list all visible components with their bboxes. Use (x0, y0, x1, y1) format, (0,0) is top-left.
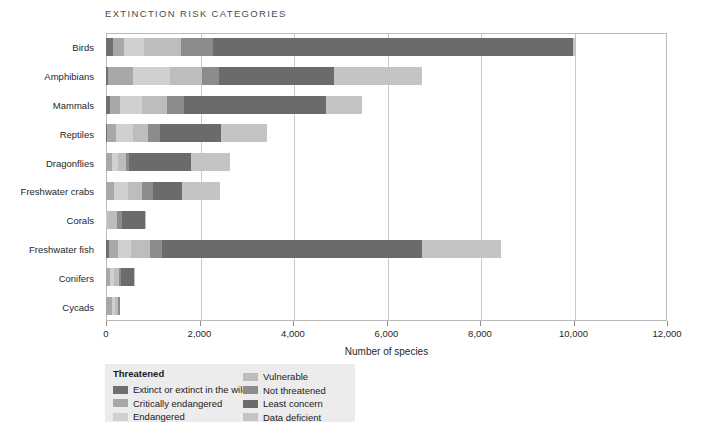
bar-segment[interactable] (219, 67, 334, 85)
bar-segment[interactable] (148, 124, 160, 142)
bar-segment[interactable] (334, 67, 422, 85)
bar-segment[interactable] (182, 182, 220, 200)
y-axis-category-labels: BirdsAmphibiansMammalsReptilesDragonflie… (0, 33, 100, 321)
y-axis-label-row: Reptiles (0, 119, 100, 148)
y-axis-tick-label: Birds (72, 42, 94, 53)
bar-segment[interactable] (153, 182, 182, 200)
legend-swatch (243, 413, 258, 421)
bar-segment[interactable] (118, 240, 131, 258)
bar-segment[interactable] (162, 240, 421, 258)
stacked-bar[interactable] (106, 124, 267, 142)
legend: Threatened Extinct or extinct in the wil… (105, 364, 355, 422)
stacked-bar[interactable] (106, 153, 230, 171)
y-axis-tick-label: Amphibians (44, 71, 94, 82)
chart-row (106, 33, 667, 62)
bar-segment[interactable] (134, 268, 135, 286)
bar-segment[interactable] (129, 153, 191, 171)
bar-segment[interactable] (221, 124, 268, 142)
y-axis-tick-label: Conifers (59, 272, 94, 283)
bar-segment[interactable] (109, 240, 117, 258)
y-axis-label-row: Conifers (0, 263, 100, 292)
bar-segment[interactable] (170, 67, 202, 85)
x-axis-tick-label: 2,000 (188, 328, 212, 339)
x-axis-tick (574, 321, 575, 326)
bar-segment[interactable] (573, 38, 576, 56)
bar-segment[interactable] (202, 67, 219, 85)
y-axis-tick-label: Freshwater crabs (21, 186, 94, 197)
x-axis-tick-label: 6,000 (375, 328, 399, 339)
stacked-bar[interactable] (106, 297, 120, 315)
bar-segment[interactable] (106, 38, 113, 56)
x-axis-tick-label: 12,000 (652, 328, 681, 339)
legend-item[interactable]: Extinct or extinct in the wild (113, 380, 248, 393)
legend-item[interactable]: Vulnerable (243, 367, 308, 380)
bar-segment[interactable] (121, 268, 134, 286)
bar-segment[interactable] (106, 182, 114, 200)
bar-segment[interactable] (160, 124, 221, 142)
bar-segment[interactable] (107, 211, 116, 229)
stacked-bar[interactable] (106, 96, 362, 114)
bar-segment[interactable] (144, 38, 181, 56)
chart-row (106, 235, 667, 264)
bar-segment[interactable] (213, 38, 573, 56)
x-axis-title: Number of species (106, 346, 667, 357)
y-axis-tick-label: Freshwater fish (29, 243, 94, 254)
bar-segment[interactable] (133, 124, 148, 142)
x-axis-tick (106, 321, 107, 326)
y-axis-label-row: Freshwater fish (0, 235, 100, 264)
bar-segment[interactable] (422, 240, 501, 258)
y-axis-label-row: Freshwater crabs (0, 177, 100, 206)
stacked-bar[interactable] (106, 38, 576, 56)
bar-segment[interactable] (191, 153, 230, 171)
y-axis-label-row: Amphibians (0, 62, 100, 91)
legend-item[interactable]: Least concern (243, 394, 323, 407)
chart-row (106, 91, 667, 120)
bar-segment[interactable] (113, 38, 123, 56)
bar-segment[interactable] (108, 67, 133, 85)
x-axis-tick (667, 321, 668, 326)
bar-segment[interactable] (118, 297, 119, 315)
bar-segment[interactable] (142, 182, 153, 200)
stacked-bar[interactable] (106, 182, 220, 200)
x-axis-tick (293, 321, 294, 326)
bar-segment[interactable] (181, 38, 213, 56)
legend-item[interactable]: Data deficient (243, 408, 321, 421)
x-axis-tick-label: 0 (103, 328, 108, 339)
chart-row (106, 206, 667, 235)
bar-segment[interactable] (122, 211, 145, 229)
stacked-bar[interactable] (106, 268, 135, 286)
bar-segment[interactable] (142, 96, 167, 114)
bar-segment[interactable] (110, 96, 120, 114)
bar-segment[interactable] (184, 96, 327, 114)
bar-segment[interactable] (116, 124, 133, 142)
chart-row (106, 119, 667, 148)
stacked-bar[interactable] (106, 211, 146, 229)
x-axis-tick (480, 321, 481, 326)
chart-row (106, 263, 667, 292)
stacked-bar[interactable] (106, 67, 422, 85)
bar-segment[interactable] (131, 240, 151, 258)
stacked-bar[interactable] (106, 240, 501, 258)
bar-segment[interactable] (133, 67, 170, 85)
chart-row (106, 292, 667, 321)
x-axis-tick-label: 8,000 (468, 328, 492, 339)
y-axis-label-row: Birds (0, 33, 100, 62)
bar-segment[interactable] (118, 153, 126, 171)
legend-item[interactable]: Critically endangered (113, 394, 222, 407)
bar-segment[interactable] (145, 211, 146, 229)
y-axis-tick-label: Dragonflies (46, 157, 94, 168)
bar-segment[interactable] (114, 182, 128, 200)
bar-segment[interactable] (124, 38, 144, 56)
y-axis-tick-label: Mammals (53, 99, 94, 110)
bar-segment[interactable] (326, 96, 362, 114)
bar-segment[interactable] (150, 240, 162, 258)
legend-item[interactable]: Endangered (113, 407, 185, 420)
legend-item[interactable]: Not threatened (243, 381, 326, 394)
chart-row (106, 62, 667, 91)
y-axis-label-row: Cycads (0, 292, 100, 321)
bar-segment[interactable] (107, 124, 115, 142)
bar-segment[interactable] (120, 96, 142, 114)
bar-segment[interactable] (128, 182, 142, 200)
bars-container (106, 33, 667, 321)
bar-segment[interactable] (167, 96, 184, 114)
